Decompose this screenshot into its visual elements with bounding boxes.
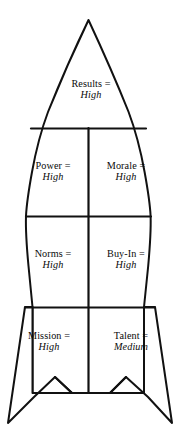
norms-value: High <box>18 259 88 270</box>
morale-metric: Morale = <box>90 160 162 171</box>
rocket-diagram: Results = High Power = High Morale = Hig… <box>0 0 182 447</box>
buyin-metric: Buy-In = <box>90 248 162 259</box>
compartment-label-mission: Mission = High <box>10 330 88 353</box>
buyin-value: High <box>90 259 162 270</box>
talent-metric: Talent = <box>90 330 172 341</box>
norms-metric: Norms = <box>18 248 88 259</box>
talent-value: Medium <box>90 341 172 352</box>
compartment-label-norms: Norms = High <box>18 248 88 271</box>
results-value: High <box>0 89 182 100</box>
compartment-label-results: Results = High <box>0 78 182 101</box>
compartment-label-morale: Morale = High <box>90 160 162 183</box>
morale-value: High <box>90 171 162 182</box>
power-value: High <box>18 171 88 182</box>
compartment-label-power: Power = High <box>18 160 88 183</box>
mission-metric: Mission = <box>10 330 88 341</box>
compartment-label-talent: Talent = Medium <box>90 330 172 353</box>
compartment-label-buyin: Buy-In = High <box>90 248 162 271</box>
power-metric: Power = <box>18 160 88 171</box>
rocket-outline-svg <box>0 0 182 447</box>
results-metric: Results = <box>0 78 182 89</box>
mission-value: High <box>10 341 88 352</box>
